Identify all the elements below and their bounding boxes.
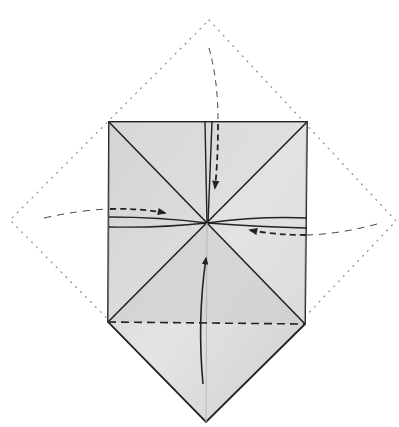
arrow-from-top-tail: [209, 48, 218, 120]
arrow-from-right-tail: [307, 224, 377, 235]
diagram-canvas: [0, 0, 399, 427]
origami-diagram: Origami fold diagram: [0, 0, 399, 427]
arrow-from-left-tail: [44, 209, 109, 218]
